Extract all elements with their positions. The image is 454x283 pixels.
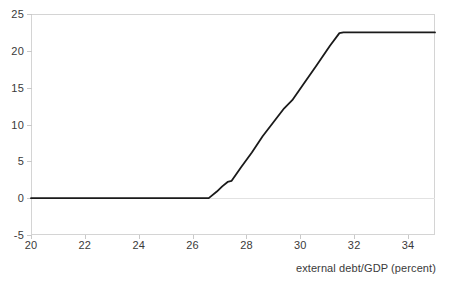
chart-root: -50510152025 2022242628303234 external d… (0, 0, 454, 283)
x-axis-title: external debt/GDP (percent) (0, 262, 436, 274)
x-tick-label: 32 (339, 240, 369, 251)
x-tick-label: 24 (124, 240, 154, 251)
x-tick-label: 20 (16, 240, 46, 251)
x-tick-label: 30 (285, 240, 315, 251)
x-axis: 2022242628303234 (0, 0, 454, 283)
x-tick-label: 28 (231, 240, 261, 251)
x-tick-label: 22 (70, 240, 100, 251)
x-tick-label: 34 (393, 240, 423, 251)
x-tick-label: 26 (178, 240, 208, 251)
